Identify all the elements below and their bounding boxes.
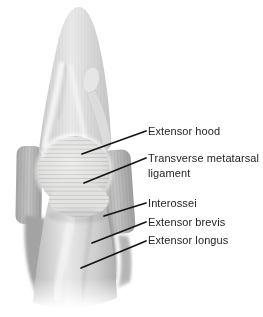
leader-line-interossei [104,203,146,216]
label-interossei: Interossei [148,196,197,211]
label-extensor-brevis: Extensor brevis [148,215,225,230]
label-extensor-longus: Extensor longus [148,233,228,248]
label-transverse-metatarsal-ligament: Transverse metatarsal ligament [148,151,262,181]
anatomy-figure: Extensor hoodTransverse metatarsal ligam… [0,0,263,317]
leader-line-transverse-metatarsal-ligament [84,158,146,183]
leader-line-extensor-hood [82,131,146,154]
leader-line-extensor-longus [81,241,146,268]
label-extensor-hood: Extensor hood [148,124,220,139]
leader-line-extensor-brevis [92,222,146,243]
